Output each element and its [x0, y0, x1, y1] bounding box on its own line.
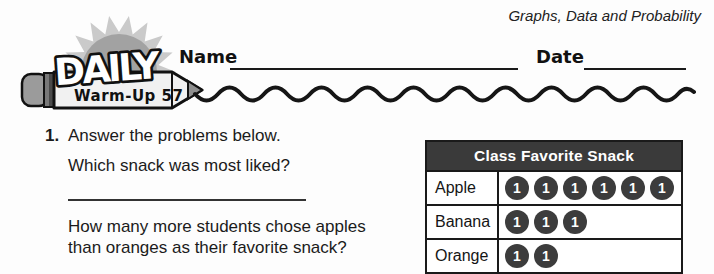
- row-label: Orange: [427, 240, 499, 272]
- wavy-divider: [192, 79, 698, 109]
- question-number: 1.: [45, 126, 59, 146]
- pictograph-table: Class Favorite Snack Apple111111Banana11…: [425, 140, 683, 274]
- counter-token: 1: [505, 176, 529, 200]
- date-blank-line: [584, 68, 686, 70]
- counter-token: 1: [534, 210, 558, 234]
- counter-token: 1: [650, 176, 674, 200]
- question-prompt-2-line2: than oranges as their favorite snack?: [68, 238, 347, 258]
- subject-header: Graphs, Data and Probability: [508, 7, 701, 24]
- question-prompt-2-line1: How many more students chose apples: [68, 217, 366, 237]
- table-row: Orange11: [427, 238, 681, 272]
- counter-token: 1: [563, 210, 587, 234]
- table-title: Class Favorite Snack: [427, 142, 681, 170]
- name-label: Name: [179, 46, 237, 67]
- table-row: Apple111111: [427, 170, 681, 204]
- row-label: Banana: [427, 206, 499, 238]
- question-instruction: Answer the problems below.: [68, 126, 281, 146]
- counter-token: 1: [534, 244, 558, 268]
- pictograph-rows: Apple111111Banana111Orange11: [427, 170, 681, 272]
- answer-blank-line: [68, 199, 306, 201]
- counter-token: 1: [563, 176, 587, 200]
- row-counters: 111111: [499, 176, 674, 200]
- counter-token: 1: [592, 176, 616, 200]
- counter-token: 1: [621, 176, 645, 200]
- table-row: Banana111: [427, 204, 681, 238]
- row-counters: 11: [499, 244, 558, 268]
- counter-token: 1: [534, 176, 558, 200]
- row-counters: 111: [499, 210, 587, 234]
- counter-token: 1: [505, 244, 529, 268]
- counter-token: 1: [505, 210, 529, 234]
- pencil-ferrule-stripe: [49, 74, 53, 106]
- logo-title: DAILY: [53, 44, 163, 94]
- row-label: Apple: [427, 172, 499, 204]
- question-prompt-1: Which snack was most liked?: [68, 156, 290, 176]
- date-label: Date: [536, 46, 584, 67]
- name-blank-line: [230, 68, 518, 70]
